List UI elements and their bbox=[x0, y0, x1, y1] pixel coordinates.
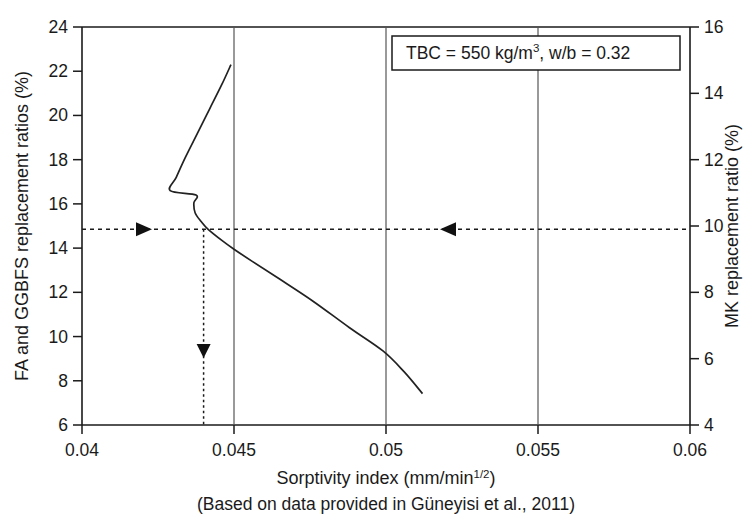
left-tick-label: 8 bbox=[58, 371, 68, 391]
x-tick-label: 0.04 bbox=[65, 440, 99, 460]
right-tick-label: 8 bbox=[704, 282, 714, 302]
left-arrow-icon bbox=[440, 222, 456, 236]
right-tick-label: 14 bbox=[704, 83, 724, 103]
annotation-box-text: TBC = 550 kg/m3, w/b = 0.32 bbox=[406, 42, 630, 63]
left-tick-label: 20 bbox=[49, 105, 69, 125]
annotation-text-a: TBC = 550 kg/m bbox=[406, 43, 533, 63]
x-axis-title-tail: ) bbox=[490, 468, 496, 488]
bottom-axis-ticks: 0.040.0450.050.0550.06 bbox=[65, 425, 707, 460]
x-tick-label: 0.06 bbox=[673, 440, 707, 460]
right-tick-label: 6 bbox=[704, 349, 714, 369]
x-tick-label: 0.045 bbox=[212, 440, 256, 460]
chart-canvas: 242220181614121086 16141210864 0.040.045… bbox=[0, 0, 752, 527]
right-axis-ticks: 16141210864 bbox=[690, 17, 724, 435]
right-tick-label: 12 bbox=[704, 150, 723, 170]
x-axis-title-main: Sorptivity index (mm/min bbox=[276, 468, 473, 488]
left-tick-label: 12 bbox=[49, 282, 68, 302]
x-tick-label: 0.05 bbox=[369, 440, 403, 460]
left-tick-label: 18 bbox=[49, 150, 68, 170]
left-axis-title: FA and GGBFS replacement ratios (%) bbox=[12, 71, 32, 381]
down-arrow-icon bbox=[197, 344, 211, 358]
right-arrow-icon bbox=[136, 222, 152, 236]
x-tick-label: 0.055 bbox=[516, 440, 560, 460]
left-tick-label: 6 bbox=[58, 415, 68, 435]
left-tick-label: 24 bbox=[49, 17, 69, 37]
left-axis-ticks: 242220181614121086 bbox=[49, 17, 82, 435]
left-tick-label: 16 bbox=[49, 194, 68, 214]
x-axis-title-superscript: 1/2 bbox=[474, 468, 490, 480]
sorptivity-chart-figure: 242220181614121086 16141210864 0.040.045… bbox=[0, 0, 752, 527]
left-tick-label: 22 bbox=[49, 61, 68, 81]
right-tick-label: 10 bbox=[704, 216, 724, 236]
left-tick-label: 10 bbox=[49, 327, 69, 347]
annotation-box: TBC = 550 kg/m3, w/b = 0.32 bbox=[392, 36, 680, 70]
annotation-text-b: , w/b = 0.32 bbox=[539, 43, 630, 63]
left-tick-label: 14 bbox=[49, 238, 69, 258]
right-axis-title: MK replacement ratio (%) bbox=[722, 124, 742, 328]
gridlines-vertical bbox=[234, 27, 538, 425]
right-tick-label: 4 bbox=[704, 415, 714, 435]
right-tick-label: 16 bbox=[704, 17, 723, 37]
figure-caption: (Based on data provided in Güneyisi et a… bbox=[197, 494, 575, 514]
x-axis-title: Sorptivity index (mm/min1/2) bbox=[276, 468, 495, 488]
